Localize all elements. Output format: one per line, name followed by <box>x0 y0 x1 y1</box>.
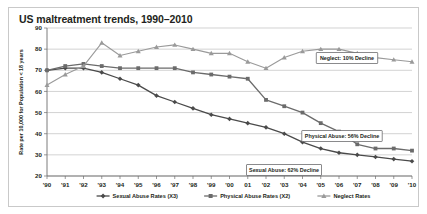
x-tick-label: '97 <box>171 181 180 188</box>
data-point <box>136 66 140 70</box>
data-point <box>100 64 104 68</box>
x-tick-label: '94 <box>116 181 125 188</box>
data-point <box>227 117 232 122</box>
x-tick-label: '93 <box>98 181 107 188</box>
data-point <box>245 121 250 126</box>
chart-inner: US maltreatment trends, 1990–2010 203040… <box>9 8 418 206</box>
data-point <box>301 111 305 115</box>
data-point <box>99 70 104 75</box>
y-tick-label: 80 <box>35 45 42 52</box>
x-tick-label: '91 <box>61 181 70 188</box>
data-point <box>319 121 323 125</box>
y-tick-label: 40 <box>35 130 42 137</box>
data-point <box>282 131 287 136</box>
data-point <box>45 83 50 87</box>
data-point <box>173 66 177 70</box>
y-tick-label: 90 <box>35 24 42 31</box>
x-tick-label: '06 <box>335 181 344 188</box>
data-point <box>118 66 122 70</box>
y-axis-ticks: 2030405060708090 <box>35 24 47 179</box>
data-point <box>155 66 159 70</box>
x-tick-label: '00 <box>225 181 234 188</box>
chart-plot: 2030405060708090 '90'91'92'93'94'95'96'9… <box>9 8 420 208</box>
data-point <box>410 149 414 153</box>
y-tick-label: 60 <box>35 88 42 95</box>
legend-item-1[interactable]: Sexual Abuse Rates (X3) <box>97 193 179 199</box>
data-point <box>264 125 269 130</box>
data-point <box>63 64 67 68</box>
y-axis-label: Rate per 10,000 for Population < 18 year… <box>18 49 24 154</box>
y-tick-label: 70 <box>35 66 42 73</box>
series-line <box>47 68 412 161</box>
legend-marker-icon <box>101 194 106 199</box>
data-point <box>373 155 378 160</box>
data-point <box>209 73 213 77</box>
legend-item-3[interactable]: Neglect Rates <box>317 193 370 199</box>
data-point <box>337 150 342 155</box>
x-tick-label: '03 <box>280 181 289 188</box>
x-tick-label: '04 <box>298 181 307 188</box>
x-tick-label: '95 <box>134 181 143 188</box>
data-point <box>355 153 360 158</box>
x-tick-label: '92 <box>79 181 88 188</box>
y-axis-title: Rate per 10,000 for Population < 18 year… <box>18 49 24 154</box>
legend-label: Neglect Rates <box>333 193 370 199</box>
data-point <box>209 112 214 117</box>
annotation-label: Neglect: 10% Decline <box>320 55 374 61</box>
y-tick-label: 50 <box>35 109 42 116</box>
y-tick-label: 20 <box>35 172 42 179</box>
data-point <box>228 75 232 79</box>
x-tick-label: '98 <box>189 181 198 188</box>
x-tick-label: '09 <box>390 181 399 188</box>
legend-marker-icon <box>209 194 213 198</box>
y-tick-label: 30 <box>35 151 42 158</box>
data-point <box>172 100 177 105</box>
data-point <box>410 159 415 164</box>
data-point <box>355 142 359 146</box>
chart-legend: Sexual Abuse Rates (X3)Physical Abuse Ra… <box>97 193 371 199</box>
x-tick-label: 01 <box>244 181 251 188</box>
x-tick-label: '10 <box>408 181 417 188</box>
data-point <box>246 77 250 81</box>
legend-item-2[interactable]: Physical Abuse Rates (X2) <box>204 193 290 199</box>
data-point <box>118 76 123 81</box>
data-point <box>45 68 49 72</box>
data-point <box>191 106 196 111</box>
chart-frame: US maltreatment trends, 1990–2010 203040… <box>8 7 419 207</box>
data-point <box>264 98 268 102</box>
x-axis-ticks: '90'91'92'93'94'95'96'97'98'99'0001'02'0… <box>43 176 417 188</box>
annotations-group: Neglect: 10% DeclinePhysical Abuse: 56% … <box>247 53 383 176</box>
series-1 <box>45 66 415 164</box>
x-tick-label: '96 <box>152 181 161 188</box>
data-point <box>191 71 195 75</box>
x-tick-label: '05 <box>317 181 326 188</box>
x-tick-label: '08 <box>371 181 380 188</box>
x-tick-label: '99 <box>207 181 216 188</box>
data-point <box>392 147 396 151</box>
sexual-abuse-annotation: Sexual Abuse: 62% Decline <box>247 165 322 176</box>
data-point <box>391 157 396 162</box>
annotation-label: Sexual Abuse: 62% Decline <box>249 167 319 173</box>
x-tick-label: '07 <box>353 181 362 188</box>
legend-label: Physical Abuse Rates (X2) <box>220 193 290 199</box>
data-point <box>282 104 286 108</box>
annotation-label: Physical Abuse: 56% Decline <box>305 133 379 139</box>
chart-figure: US maltreatment trends, 1990–2010 203040… <box>0 0 427 214</box>
x-tick-label: '02 <box>262 181 271 188</box>
neglect-annotation: Neglect: 10% Decline <box>316 53 377 64</box>
data-point <box>374 147 378 151</box>
x-tick-label: '90 <box>43 181 52 188</box>
data-point <box>318 146 323 151</box>
physical-abuse-annotation: Physical Abuse: 56% Decline <box>302 131 382 142</box>
legend-label: Sexual Abuse Rates (X3) <box>113 193 179 199</box>
data-point <box>99 40 104 44</box>
